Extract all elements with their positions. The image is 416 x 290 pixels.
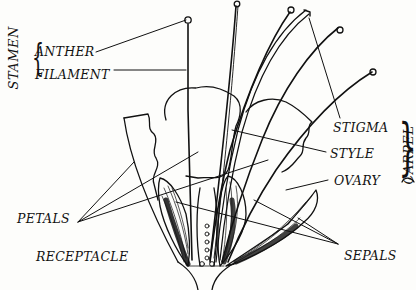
- label-style: STYLE: [330, 148, 374, 161]
- filament-1: [188, 24, 192, 260]
- leader-ovary: [286, 180, 328, 190]
- leader-stigma: [309, 18, 340, 118]
- leader-sepals-c: [298, 218, 338, 244]
- label-stigma: STIGMA: [333, 122, 388, 135]
- label-ovary: OVARY: [334, 175, 380, 188]
- left-petal-outline: [124, 114, 158, 200]
- group-label-carpel: CARPEL: [402, 129, 415, 185]
- anther-2: [234, 1, 240, 7]
- group-label-stamen: STAMEN: [7, 40, 20, 90]
- anther-4: [337, 27, 343, 33]
- leader-style: [232, 130, 326, 152]
- label-petals: PETALS: [17, 213, 70, 226]
- leader-sepals-b: [254, 200, 338, 244]
- filament-5: [228, 72, 372, 262]
- anther-3: [288, 7, 294, 13]
- label-receptacle: RECEPTACLE: [36, 251, 128, 264]
- label-sepals: SEPALS: [344, 250, 397, 263]
- flower-diagram: STAMEN { ANTHER FILAMENT STIGMA STYLE OV…: [0, 0, 416, 290]
- label-anther: ANTHER: [35, 46, 95, 59]
- filament-3: [210, 12, 290, 262]
- leader-anther: [96, 20, 186, 52]
- leader-sepals-a: [176, 202, 338, 244]
- label-filament: FILAMENT: [35, 69, 110, 82]
